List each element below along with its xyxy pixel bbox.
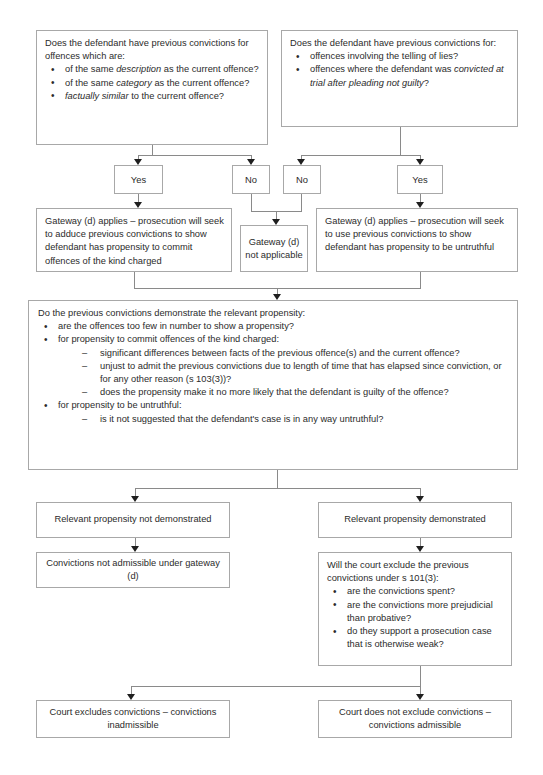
- connector-propensity-split: [135, 488, 421, 489]
- q1-bullets: of the same description as the current o…: [45, 63, 260, 103]
- connector-no-left-down: [251, 194, 252, 211]
- prop-not-demo-text: Relevant propensity not demonstrated: [54, 513, 211, 526]
- connector-gw-left-down: [134, 272, 135, 288]
- connector-q2-stem: [400, 127, 401, 155]
- propensity-bullet-3-label: for propensity to be untruthful:: [58, 400, 182, 410]
- s101-bullets: are the convictions spent? are the convi…: [327, 585, 504, 651]
- gateway-na-text: Gateway (d) not applicable: [245, 236, 303, 262]
- propensity-sub-2-2: unjust to admit the previous convictions…: [78, 360, 509, 386]
- q2-bullets: offences involving the telling of lies? …: [290, 50, 510, 90]
- court-not-excludes-text: Court does not exclude convictions – con…: [323, 706, 507, 732]
- decision-yes-right-label: Yes: [412, 173, 427, 186]
- propensity-bullet-3-subs: is it not suggested that the defendant's…: [78, 413, 509, 426]
- propensity-bullet-2: for propensity to commit offences of the…: [38, 333, 509, 399]
- propensity-lead: Do the previous convictions demonstrate …: [38, 307, 509, 320]
- q1-lead: Does the defendant have previous convict…: [45, 37, 260, 63]
- q2-bullet-2: offences where the defendant was convict…: [290, 63, 510, 89]
- decision-yes-right: Yes: [397, 165, 443, 194]
- decision-no-right-label: No: [296, 173, 308, 186]
- decision-yes-left: Yes: [114, 165, 163, 194]
- connector-q1-stem: [152, 145, 153, 155]
- decision-no-left-label: No: [245, 173, 257, 186]
- gateway-right-text: Gateway (d) applies – prosecution will s…: [325, 215, 510, 255]
- flowchart-canvas: Does the defendant have previous convict…: [0, 0, 543, 775]
- q2-bullet-1: offences involving the telling of lies?: [290, 50, 510, 63]
- propensity-bullet-3: for propensity to be untruthful: is it n…: [38, 399, 509, 425]
- propensity-sub-2-1: significant differences between facts of…: [78, 347, 509, 360]
- propensity-bullets: are the offences too few in number to sh…: [38, 320, 509, 426]
- outcome-gateway-d-applies-untruthful: Gateway (d) applies – prosecution will s…: [316, 208, 518, 272]
- outcome-gateway-d-applies-propensity: Gateway (d) applies – prosecution will s…: [36, 208, 232, 272]
- connector-q1-split: [138, 155, 251, 156]
- question-box-gateway-d-untruthful: Does the defendant have previous convict…: [281, 30, 518, 127]
- outcome-gateway-d-not-applicable: Gateway (d) not applicable: [240, 225, 308, 272]
- s101-bullet-1: are the convictions spent?: [327, 585, 504, 598]
- connector-s101-split: [131, 686, 421, 687]
- gateway-left-text: Gateway (d) applies – prosecution will s…: [45, 215, 224, 268]
- s101-bullet-3: do they support a prosecution case that …: [327, 625, 504, 651]
- connector-q2-split: [301, 155, 421, 156]
- propensity-sub-3-1: is it not suggested that the defendant's…: [78, 413, 509, 426]
- propensity-bullet-1: are the offences too few in number to sh…: [38, 320, 509, 333]
- outcome-relevant-propensity-demonstrated: Relevant propensity demonstrated: [318, 502, 512, 538]
- outcome-convictions-not-admissible: Convictions not admissible under gateway…: [36, 552, 230, 588]
- decision-no-left: No: [232, 165, 270, 194]
- connector-propensity-stem: [277, 470, 278, 488]
- prop-demo-text: Relevant propensity demonstrated: [344, 513, 486, 526]
- court-excludes-text: Court excludes convictions – convictions…: [41, 706, 225, 732]
- propensity-bullet-2-subs: significant differences between facts of…: [78, 347, 509, 400]
- decision-yes-left-label: Yes: [131, 173, 146, 186]
- question-box-relevant-propensity: Do the previous convictions demonstrate …: [28, 300, 518, 470]
- q1-bullet-2: of the same category as the current offe…: [45, 77, 260, 90]
- connector-s101-stem: [420, 666, 421, 686]
- question-box-s101-3-exclusion: Will the court exclude the previous conv…: [318, 552, 512, 666]
- propensity-sub-2-3: does the propensity make it no more like…: [78, 386, 509, 399]
- q1-bullet-3: factually similar to the current offence…: [45, 90, 260, 103]
- outcome-court-does-not-exclude-convictions: Court does not exclude convictions – con…: [318, 700, 512, 738]
- question-box-gateway-d-description: Does the defendant have previous convict…: [36, 30, 268, 145]
- outcome-relevant-propensity-not-demonstrated: Relevant propensity not demonstrated: [36, 502, 230, 538]
- s101-bullet-2: are the convictions more prejudicial tha…: [327, 599, 504, 625]
- connector-no-right-down: [301, 194, 302, 211]
- decision-no-right: No: [283, 165, 321, 194]
- propensity-bullet-2-label: for propensity to commit offences of the…: [58, 334, 279, 344]
- s101-lead: Will the court exclude the previous conv…: [327, 559, 504, 585]
- q2-lead: Does the defendant have previous convict…: [290, 37, 510, 50]
- connector-gw-right-down: [420, 272, 421, 288]
- q1-bullet-1: of the same description as the current o…: [45, 63, 260, 76]
- outcome-court-excludes-convictions: Court excludes convictions – convictions…: [36, 700, 230, 738]
- not-admissible-text: Convictions not admissible under gateway…: [41, 557, 225, 583]
